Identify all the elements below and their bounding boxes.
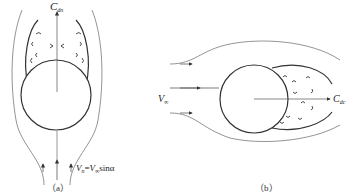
inflow-label-sub: ∞: [164, 99, 168, 105]
figure-a: [12, 10, 102, 185]
caption-b: （b）: [255, 181, 278, 194]
drag-label-b-sub: dc: [340, 99, 346, 105]
drag-label-b-main: C: [333, 93, 340, 104]
velocity-label-a: Vn=V∞sinα: [76, 163, 115, 174]
drag-label-a: Cdn: [50, 0, 63, 13]
caption-a: （a）: [47, 181, 69, 194]
cylinder-a: [21, 60, 91, 130]
diagram-canvas: [0, 0, 353, 196]
sin-alpha: sinα: [99, 163, 114, 173]
drag-label-a-sub: dn: [57, 7, 63, 13]
inflow-label-b: V∞: [158, 93, 168, 105]
drag-label-b: Cdc: [333, 93, 345, 105]
figure-b: [170, 41, 340, 141]
streamline-top-outer: [170, 41, 340, 64]
